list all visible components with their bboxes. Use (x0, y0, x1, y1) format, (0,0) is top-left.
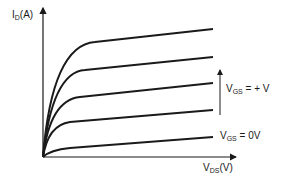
curve-vgs-4 (43, 29, 213, 157)
curve-vgs-0 (43, 137, 213, 157)
vgs-plus-label: VGS = + V (226, 83, 269, 95)
curve-vgs-1 (43, 110, 213, 157)
x-axis-label: VDS(V) (203, 162, 233, 174)
curve-vgs-2 (43, 83, 213, 157)
curve-vgs-3 (43, 57, 213, 157)
y-axis-label: ID(A) (12, 9, 33, 21)
vgs-zero-label: VGS = 0V (220, 130, 260, 142)
